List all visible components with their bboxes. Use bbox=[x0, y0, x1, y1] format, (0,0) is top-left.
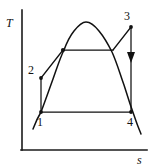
state-label-1: 1 bbox=[37, 115, 43, 129]
state-label-4: 4 bbox=[127, 115, 133, 129]
state-label-3: 3 bbox=[124, 9, 130, 23]
expansion-arrow-icon bbox=[127, 52, 135, 63]
ts-diagram-figure: T s 1 2 3 4 bbox=[0, 0, 157, 167]
state-node-1 bbox=[39, 110, 43, 114]
temperature-axis-label: T bbox=[6, 16, 14, 30]
process-superheat-to-3 bbox=[113, 27, 131, 50]
labels-group: T s 1 2 3 4 bbox=[6, 9, 142, 167]
state-node-3 bbox=[129, 25, 133, 29]
state-node-2 bbox=[39, 76, 43, 80]
state-label-2: 2 bbox=[28, 63, 34, 77]
vapor-dome-curve bbox=[33, 22, 141, 134]
entropy-axis-label: s bbox=[137, 153, 142, 167]
state-node-saturated-liquid bbox=[61, 48, 65, 52]
state-node-4 bbox=[129, 110, 133, 114]
process-2-to-saturation bbox=[41, 50, 63, 78]
ts-diagram-canvas: T s 1 2 3 4 bbox=[0, 0, 157, 167]
saturation-dome-group bbox=[33, 22, 141, 134]
cycle-process-group bbox=[41, 27, 135, 112]
